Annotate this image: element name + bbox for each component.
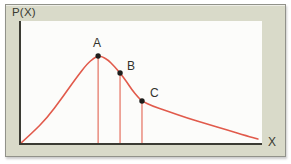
chart-frame: P(X) X ABC [5, 4, 286, 157]
x-axis-label: X [268, 135, 276, 149]
curve-path [21, 56, 258, 143]
y-axis-label: P(X) [12, 6, 36, 18]
figure: P(X) X ABC [0, 0, 291, 164]
data-point-label: B [127, 59, 135, 73]
data-point-dot [117, 70, 122, 75]
plot-area: ABC [19, 21, 262, 145]
curve-canvas: ABC [21, 21, 262, 143]
data-point-label: C [150, 86, 159, 100]
data-point-label: A [93, 36, 101, 50]
data-point-dot [139, 98, 144, 103]
data-point-dot [95, 53, 100, 58]
